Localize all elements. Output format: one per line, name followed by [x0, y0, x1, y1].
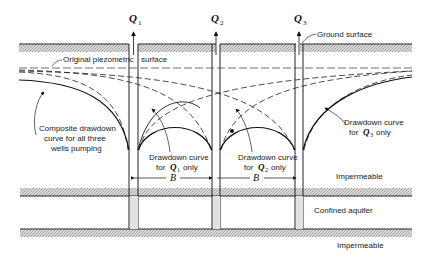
svg-text:Q: Q — [211, 12, 219, 24]
spacing-label-1: B — [170, 172, 176, 183]
q2-curve-label-only: only — [271, 163, 286, 172]
q2-curve-label-q: Q — [258, 162, 265, 172]
well-2 — [212, 32, 220, 229]
well-label-q2: Q 2 — [211, 12, 224, 27]
well-label-q3: Q 3 — [294, 12, 307, 27]
svg-text:2: 2 — [220, 19, 224, 27]
spacing-label-2: B — [253, 172, 259, 183]
q1-curve-label-for: for — [156, 163, 166, 172]
q1-curve-label-sub: 1 — [177, 167, 180, 173]
upper-confining-layer — [20, 188, 412, 196]
svg-text:1: 1 — [138, 19, 142, 27]
q2-curve-label-line1: Drawdown curve — [238, 153, 298, 162]
ground-surface-label: Ground surface — [317, 30, 373, 39]
diagram-svg: Q 1 Q 2 Q 3 Ground surface Original piez… — [0, 0, 432, 257]
composite-label-line3: wells pumping — [50, 144, 102, 153]
composite-label-line1: Composite drawdown — [39, 124, 116, 133]
q3-curve-label-sub: 3 — [370, 132, 373, 138]
diagram: Q 1 Q 2 Q 3 Ground surface Original piez… — [0, 0, 432, 257]
svg-text:Q: Q — [129, 12, 137, 24]
q2-curve-label-sub: 2 — [265, 167, 268, 173]
q3-curve-label-for: for — [349, 128, 359, 137]
lower-confining-layer — [20, 229, 412, 237]
q1-curve-label-only: only — [183, 163, 198, 172]
q3-curve-label-q: Q — [363, 127, 370, 137]
q1-curve-label-q: Q — [170, 162, 177, 172]
composite-label-line2: curve for all three — [44, 134, 106, 143]
impermeable-bottom-label: Impermeable — [337, 241, 384, 250]
svg-text:Q: Q — [294, 12, 302, 24]
q3-curve-label-only: only — [376, 128, 391, 137]
well-3 — [295, 32, 303, 229]
q1-curve-label-line1: Drawdown curve — [149, 153, 209, 162]
marker-dot — [230, 129, 234, 133]
surface-label: surface — [141, 55, 168, 64]
svg-text:3: 3 — [303, 19, 307, 27]
impermeable-top-label: Impermeable — [336, 172, 383, 181]
q2-curve-label-for: for — [244, 163, 254, 172]
confined-aquifer-label: Confined aquifer — [314, 206, 373, 215]
q3-curve-label-line1: Drawdown curve — [344, 118, 404, 127]
original-piezometric-label: Original piezometric — [63, 55, 134, 64]
well-label-q1: Q 1 — [129, 12, 142, 27]
ground-surface — [19, 44, 412, 52]
